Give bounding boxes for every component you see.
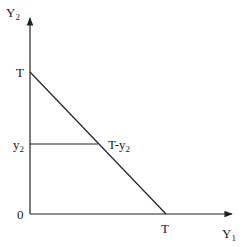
origin-label: 0 [17,208,24,221]
y-axis-label-sub: 2 [15,12,20,22]
diagram-canvas [0,0,244,247]
x-tick-T: T [161,222,169,235]
budget-line [30,72,166,214]
x-axis-label: Y1 [222,227,236,243]
x-axis-label-main: Y [222,226,231,241]
y-tick-y2: y2 [13,138,24,154]
intersection-label-sub: 2 [126,144,131,154]
y-tick-T: T [16,66,24,79]
y-axis-label: Y2 [6,6,20,22]
intersection-label: T-y2 [108,138,130,154]
y-tick-y2-sub: 2 [20,144,25,154]
y-axis-label-main: Y [6,5,15,20]
x-axis-label-sub: 1 [231,233,236,243]
intersection-label-main: T-y [108,137,126,152]
